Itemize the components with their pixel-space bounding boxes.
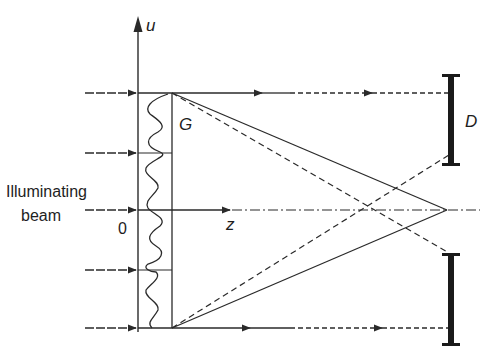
u-axis-arrow-icon xyxy=(134,16,143,32)
u-axis-label: u xyxy=(146,16,156,35)
diffraction-diagram: u G D Illuminating beam 0 z xyxy=(0,0,492,362)
u-axis xyxy=(134,16,143,332)
z-axis-label: z xyxy=(225,215,235,234)
detector-top xyxy=(442,74,460,166)
origin-label: 0 xyxy=(118,220,127,237)
incoming-beams xyxy=(85,93,136,328)
beam-label-line1: Illuminating xyxy=(6,183,87,200)
detector-bottom xyxy=(442,253,460,346)
detector-label: D xyxy=(465,112,477,131)
grating-label: G xyxy=(179,115,192,134)
beam-label-line2: beam xyxy=(21,207,61,224)
grating-profile xyxy=(146,94,168,328)
